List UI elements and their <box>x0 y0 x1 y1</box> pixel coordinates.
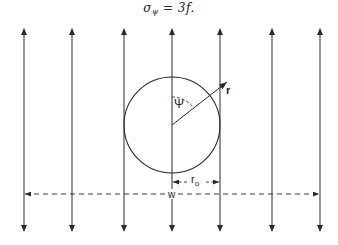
psi-label: Ψ <box>174 97 184 111</box>
r-label: r <box>226 84 231 96</box>
r0-label-subscript: o <box>195 179 200 188</box>
arrow-up-icon <box>21 28 27 35</box>
arrow-up-icon <box>269 28 275 35</box>
arrow-down-icon <box>269 225 275 232</box>
arrow-up-icon <box>217 28 223 35</box>
arrow-up-icon <box>317 28 323 35</box>
arrow-down-icon <box>169 225 175 232</box>
arrow-down-icon <box>21 225 27 232</box>
arrow-up-icon <box>69 28 75 35</box>
arrow-down-icon <box>317 225 323 232</box>
arrow-down-icon <box>69 225 75 232</box>
w-label: w <box>167 189 176 200</box>
arrow-up-icon <box>121 28 127 35</box>
flux-lines <box>21 28 323 232</box>
arrow-down-icon <box>121 225 127 232</box>
arrow-up-icon <box>169 28 175 35</box>
arrow-down-icon <box>217 225 223 232</box>
flux-diagram: Ψ r ro w <box>0 0 338 245</box>
